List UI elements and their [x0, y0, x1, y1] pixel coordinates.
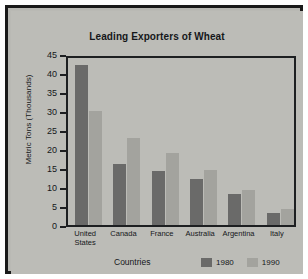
bar[interactable] — [89, 111, 102, 225]
bar-group — [150, 58, 188, 225]
legend-item[interactable]: 1980 — [201, 258, 234, 267]
x-axis-title: Countries — [114, 257, 150, 267]
x-axis-tick-label: France — [143, 230, 181, 239]
bar[interactable] — [75, 65, 88, 225]
bar[interactable] — [242, 190, 255, 225]
x-axis-tick-labels: United StatesCanadaFranceAustraliaArgent… — [66, 230, 296, 256]
bar-group — [73, 58, 111, 225]
x-axis-tick-label: Italy — [258, 230, 296, 239]
chart-figure: Leading Exporters of Wheat Metric Tons (… — [0, 0, 308, 279]
chart-canvas: Leading Exporters of Wheat Metric Tons (… — [11, 11, 303, 274]
bar-group — [188, 58, 226, 225]
y-axis-ticks: 051015202530354045 — [11, 56, 66, 227]
y-axis-tick-label: 30 — [47, 107, 57, 117]
chart-legend: 19801990 — [201, 256, 288, 268]
bar[interactable] — [190, 179, 203, 225]
y-axis-tick-label: 20 — [47, 145, 57, 155]
x-axis-tick-label: Australia — [181, 230, 219, 239]
bar[interactable] — [228, 194, 241, 225]
bar-group — [265, 58, 303, 225]
x-axis-tick-label: Canada — [104, 230, 142, 239]
y-axis-tick-label: 15 — [47, 164, 57, 174]
y-axis-tick-label: 45 — [47, 50, 57, 60]
legend-label: 1990 — [262, 258, 280, 267]
bar-group — [111, 58, 149, 225]
bar-group — [226, 58, 264, 225]
y-axis-tick-label: 35 — [47, 88, 57, 98]
legend-item[interactable]: 1990 — [247, 258, 280, 267]
bar[interactable] — [152, 171, 165, 225]
bar[interactable] — [127, 138, 140, 225]
chart-outer-border: Leading Exporters of Wheat Metric Tons (… — [5, 5, 303, 274]
bars-container — [68, 58, 294, 225]
x-axis-tick-label: Argentina — [219, 230, 257, 239]
bar[interactable] — [113, 164, 126, 225]
x-axis-tick-label: United States — [66, 230, 104, 248]
y-axis-tick-label: 5 — [52, 202, 57, 212]
chart-title: Leading Exporters of Wheat — [11, 31, 303, 42]
y-axis-tick-label: 25 — [47, 126, 57, 136]
bar[interactable] — [267, 213, 280, 225]
plot-area — [66, 56, 296, 227]
y-axis-tick-label: 40 — [47, 69, 57, 79]
y-axis-tick-label: 0 — [52, 221, 57, 231]
legend-swatch — [201, 258, 212, 267]
bar[interactable] — [204, 170, 217, 225]
legend-label: 1980 — [216, 258, 234, 267]
bar[interactable] — [166, 153, 179, 225]
y-axis-tick-label: 10 — [47, 183, 57, 193]
legend-swatch — [247, 258, 258, 267]
bar[interactable] — [281, 209, 294, 225]
